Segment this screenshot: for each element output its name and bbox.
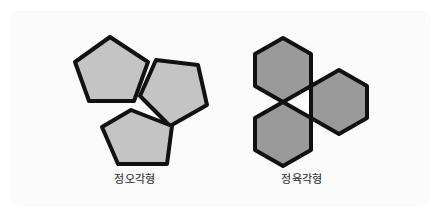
pentagon-top-left <box>75 37 148 101</box>
tessellation-diagram <box>0 0 441 216</box>
hexagon-group <box>255 38 367 166</box>
hexagon-top-left <box>255 38 311 102</box>
hexagon-bottom-left <box>255 102 311 166</box>
pentagon-group-label: 정오각형 <box>75 170 195 186</box>
figure-root: 정오각형 정육각형 <box>0 0 441 216</box>
hexagon-right <box>311 70 367 134</box>
hexagon-group-label: 정육각형 <box>242 170 362 186</box>
pentagon-group <box>75 37 207 164</box>
